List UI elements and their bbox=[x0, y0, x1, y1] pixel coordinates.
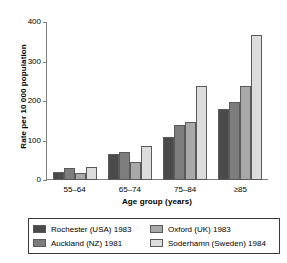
bar-group bbox=[158, 22, 213, 180]
bar[interactable] bbox=[119, 152, 130, 180]
bar[interactable] bbox=[251, 35, 262, 180]
bar[interactable] bbox=[108, 154, 119, 180]
y-tick-label: 0 bbox=[17, 176, 41, 184]
bar[interactable] bbox=[130, 162, 141, 180]
bar[interactable] bbox=[64, 168, 75, 180]
bar[interactable] bbox=[185, 122, 196, 180]
bar-group bbox=[47, 22, 102, 180]
y-tick-label: 200 bbox=[17, 97, 41, 105]
x-axis-label: Age group (years) bbox=[46, 197, 268, 206]
chart-figure: Rate per 10 000 population 0100200300400… bbox=[0, 0, 287, 263]
legend-swatch-icon bbox=[33, 239, 46, 247]
plot-area: Rate per 10 000 population 0100200300400… bbox=[0, 0, 287, 200]
bar[interactable] bbox=[240, 86, 251, 180]
legend-row: Rochester (USA) 1983Oxford (UK) 1983 bbox=[33, 222, 275, 236]
legend-label: Auckland (NZ) 1981 bbox=[51, 239, 122, 248]
x-axis-tick-labels: 55–6465–7475–84≥85 bbox=[47, 185, 268, 197]
legend-label: Oxford (UK) 1983 bbox=[168, 225, 231, 234]
bar[interactable] bbox=[53, 172, 64, 180]
legend-item[interactable]: Rochester (USA) 1983 bbox=[33, 222, 150, 236]
legend-item[interactable]: Oxford (UK) 1983 bbox=[150, 222, 275, 236]
bar[interactable] bbox=[196, 86, 207, 180]
bar[interactable] bbox=[75, 173, 86, 181]
x-tick-label: 55–64 bbox=[50, 185, 100, 194]
bar[interactable] bbox=[141, 146, 152, 180]
x-tick-label: 75–84 bbox=[160, 185, 210, 194]
y-axis-tick-labels: 0100200300400 bbox=[17, 16, 41, 186]
legend-swatch-icon bbox=[33, 225, 46, 233]
bars-container bbox=[47, 22, 268, 180]
y-tick-mark bbox=[43, 180, 47, 181]
bar[interactable] bbox=[174, 125, 185, 180]
bar[interactable] bbox=[86, 167, 97, 180]
chart-legend: Rochester (USA) 1983Oxford (UK) 1983Auck… bbox=[28, 218, 280, 254]
legend-label: Rochester (USA) 1983 bbox=[51, 225, 131, 234]
x-tick-label: 65–74 bbox=[105, 185, 155, 194]
legend-item[interactable]: Soderhamn (Sweden) 1984 bbox=[150, 236, 275, 250]
legend-label: Soderhamn (Sweden) 1984 bbox=[168, 239, 266, 248]
legend-row: Auckland (NZ) 1981Soderhamn (Sweden) 198… bbox=[33, 236, 275, 250]
bar[interactable] bbox=[163, 137, 174, 180]
y-tick-label: 300 bbox=[17, 58, 41, 66]
legend-swatch-icon bbox=[150, 225, 163, 233]
bar-group bbox=[213, 22, 268, 180]
legend-item[interactable]: Auckland (NZ) 1981 bbox=[33, 236, 150, 250]
bar-group bbox=[102, 22, 157, 180]
legend-swatch-icon bbox=[150, 239, 163, 247]
bar[interactable] bbox=[229, 102, 240, 180]
x-tick-label: ≥85 bbox=[215, 185, 265, 194]
y-tick-label: 100 bbox=[17, 137, 41, 145]
y-tick-label: 400 bbox=[17, 18, 41, 26]
bar[interactable] bbox=[218, 109, 229, 180]
